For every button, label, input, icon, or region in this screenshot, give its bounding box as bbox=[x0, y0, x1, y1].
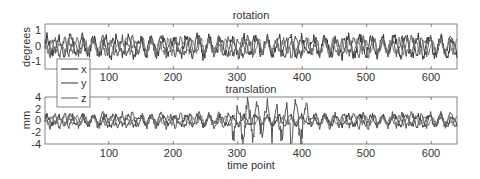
legend: x y z bbox=[57, 59, 90, 107]
translation-ylabel: mm bbox=[20, 111, 32, 129]
xtick: 500 bbox=[357, 147, 375, 159]
translation-xlabel: time point bbox=[227, 159, 275, 171]
xtick: 400 bbox=[293, 71, 311, 83]
xtick: 300 bbox=[228, 71, 246, 83]
xtick: 100 bbox=[100, 147, 118, 159]
ytick: 0 bbox=[35, 40, 41, 52]
translation-lines bbox=[45, 97, 457, 144]
motion-parameters-figure: rotation degrees 1 0 -1 100 200 300 400 … bbox=[0, 0, 480, 179]
rotation-ylabel: degrees bbox=[20, 27, 32, 67]
xtick: 200 bbox=[164, 71, 182, 83]
xtick: 400 bbox=[293, 147, 311, 159]
xtick: 500 bbox=[357, 71, 375, 83]
ytick: 1 bbox=[35, 24, 41, 36]
xtick: 600 bbox=[422, 147, 440, 159]
legend-z: z bbox=[81, 92, 87, 104]
ytick: -1 bbox=[31, 55, 41, 67]
xtick: 200 bbox=[164, 147, 182, 159]
ytick: -4 bbox=[31, 138, 41, 150]
legend-x: x bbox=[81, 63, 87, 75]
ytick: 0 bbox=[35, 114, 41, 126]
ytick: -2 bbox=[31, 126, 41, 138]
legend-y: y bbox=[81, 77, 87, 89]
rotation-lines bbox=[45, 33, 457, 61]
rotation-title: rotation bbox=[233, 9, 270, 21]
translation-title: translation bbox=[226, 83, 277, 95]
xtick: 300 bbox=[228, 147, 246, 159]
xtick: 100 bbox=[100, 71, 118, 83]
ytick: 4 bbox=[35, 91, 41, 103]
xtick: 600 bbox=[422, 71, 440, 83]
